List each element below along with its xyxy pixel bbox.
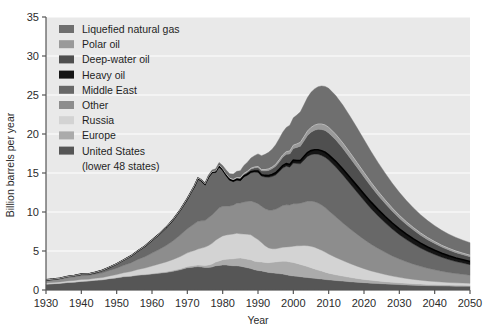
- y-tick-label: 30: [27, 50, 39, 62]
- y-axis-title: Billion barrels per year: [4, 112, 16, 217]
- legend-label-continuation: (lower 48 states): [82, 160, 160, 172]
- y-tick-label: 5: [33, 245, 39, 257]
- x-tick-label: 2010: [316, 297, 340, 309]
- x-tick-label: 1960: [140, 297, 164, 309]
- y-tick-label: 15: [27, 167, 39, 179]
- legend-label: Europe: [82, 129, 116, 141]
- legend-swatch: [59, 101, 74, 109]
- chart-figure: 05101520253035 1930194019501960197019801…: [0, 0, 483, 329]
- legend-label: Middle East: [82, 84, 137, 96]
- legend-swatch: [59, 116, 74, 124]
- x-tick-label: 1930: [34, 297, 58, 309]
- y-tick-label: 25: [27, 89, 39, 101]
- legend-label: Liquefied natural gas: [82, 23, 180, 35]
- legend-label: Deep-water oil: [82, 53, 150, 65]
- legend-swatch: [59, 71, 74, 79]
- stacked-area-chart: 05101520253035 1930194019501960197019801…: [0, 0, 483, 329]
- legend-swatch: [59, 147, 74, 155]
- legend-label: Polar oil: [82, 38, 120, 50]
- legend-swatch: [59, 55, 74, 63]
- x-tick-label: 1940: [69, 297, 93, 309]
- y-tick-label: 35: [27, 11, 39, 23]
- x-tick-label: 1990: [246, 297, 270, 309]
- x-tick-label: 2040: [422, 297, 446, 309]
- x-tick-label: 2000: [281, 297, 305, 309]
- legend-label: Russia: [82, 114, 114, 126]
- x-tick-label: 2050: [458, 297, 482, 309]
- legend-label: Heavy oil: [82, 69, 125, 81]
- x-tick-label: 1970: [175, 297, 199, 309]
- legend-swatch: [59, 86, 74, 94]
- y-tick-label: 0: [33, 284, 39, 296]
- legend-label: Other: [82, 99, 109, 111]
- x-tick-label: 2020: [352, 297, 376, 309]
- y-tick-label: 20: [27, 128, 39, 140]
- x-axis-title: Year: [247, 314, 269, 326]
- x-tick-label: 1980: [210, 297, 234, 309]
- legend-label: United States: [82, 145, 145, 157]
- x-tick-label: 1950: [104, 297, 128, 309]
- x-tick-label: 2030: [387, 297, 411, 309]
- y-tick-label: 10: [27, 206, 39, 218]
- legend-swatch: [59, 25, 74, 33]
- legend-swatch: [59, 131, 74, 139]
- legend-swatch: [59, 40, 74, 48]
